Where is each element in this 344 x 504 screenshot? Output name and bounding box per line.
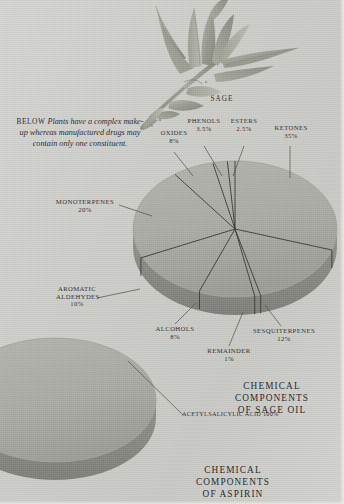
page-edge-right — [340, 0, 344, 504]
sage-pie-rim — [133, 229, 337, 315]
aspirin-leader-line — [128, 361, 183, 415]
caption-lead-in: BELOW — [17, 117, 46, 126]
label-acetylsalicylic-acid: ACETYLSALICYLIC ACID 100% — [182, 411, 332, 418]
label-aromatic-aldehydes: AROMATIC ALDEHYDES 10% — [56, 285, 98, 308]
aspirin-pie-rim — [0, 400, 156, 480]
label-remainder: REMAINDER 1% — [205, 347, 253, 362]
label-oxides: OXIDES 8% — [150, 129, 198, 144]
aspirin-pie-chart — [0, 338, 183, 480]
sage-specimen-label: SAGE — [198, 95, 246, 103]
label-monoterpenes: MONOTERPENES 20% — [51, 198, 119, 213]
sage-pie-rim-ticks — [141, 250, 332, 314]
sage-leader-lines — [97, 146, 290, 346]
aspirin-pie-face — [0, 338, 156, 462]
sage-sprig-photo — [118, 0, 308, 136]
label-sesquiterpenes: SESQUITERPENES 12% — [252, 327, 316, 342]
infographic-page: BELOW Plants have a complex make-up wher… — [0, 0, 344, 504]
label-alcohols: ALCOHOLS 8% — [151, 325, 199, 340]
sage-pie-dividers — [141, 161, 332, 296]
sage-pie-face — [133, 161, 337, 297]
label-esters: ESTERS 2.5% — [220, 117, 268, 132]
label-ketones: KETONES 35% — [266, 124, 316, 139]
sage-pie-chart — [97, 146, 337, 346]
aspirin-chart-title: CHEMICAL COMPONENTS OF ASPIRIN — [178, 465, 288, 501]
below-caption: BELOW Plants have a complex make-up wher… — [14, 116, 146, 149]
